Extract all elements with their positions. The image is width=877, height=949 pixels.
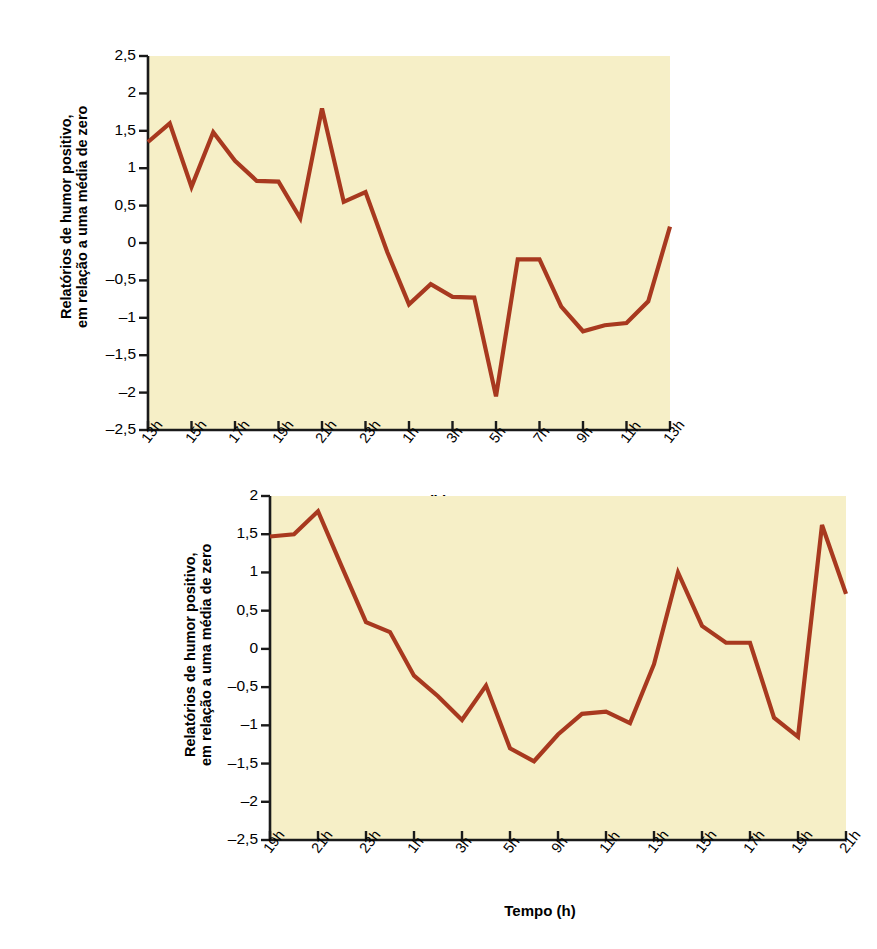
- y-tick-label: 0: [78, 233, 136, 251]
- y-tick-label: 2: [78, 83, 136, 101]
- y-tick-label: 2,5: [78, 46, 136, 64]
- y-tick-label: –0,5: [78, 270, 136, 288]
- y-tick-label: 0: [200, 639, 258, 657]
- y-tick-label: –1: [200, 715, 258, 733]
- y-tick-label: 1: [78, 158, 136, 176]
- y-tick-label: 2: [200, 486, 258, 504]
- y-tick-label: 1,5: [78, 121, 136, 139]
- y-tick-label: –2,5: [200, 830, 258, 848]
- y-tick-label: –1: [78, 308, 136, 326]
- chart-figure: Relatórios de humor positivo, em relação…: [0, 0, 877, 949]
- chart-top-y-axis-title: Relatórios de humor positivo, em relação…: [58, 52, 90, 382]
- chart-bottom-plot-area: [0, 440, 877, 949]
- y-tick-label: –2: [78, 383, 136, 401]
- y-tick-label: 0,5: [78, 196, 136, 214]
- y-tick-label: 0,5: [200, 601, 258, 619]
- chart-top: Relatórios de humor positivo, em relação…: [0, 0, 877, 470]
- y-tick-label: –1,5: [200, 754, 258, 772]
- y-tick-label: 1: [200, 562, 258, 580]
- y-tick-label: 1,5: [200, 524, 258, 542]
- chart-bottom: Relatórios de humor positivo, em relação…: [0, 440, 877, 949]
- y-tick-label: –1,5: [78, 345, 136, 363]
- chart-bottom-x-axis-title: Tempo (h): [420, 902, 660, 919]
- plot-background: [148, 56, 670, 430]
- y-tick-label: –0,5: [200, 677, 258, 695]
- y-tick-label: –2,5: [78, 420, 136, 438]
- y-tick-label: –2: [200, 792, 258, 810]
